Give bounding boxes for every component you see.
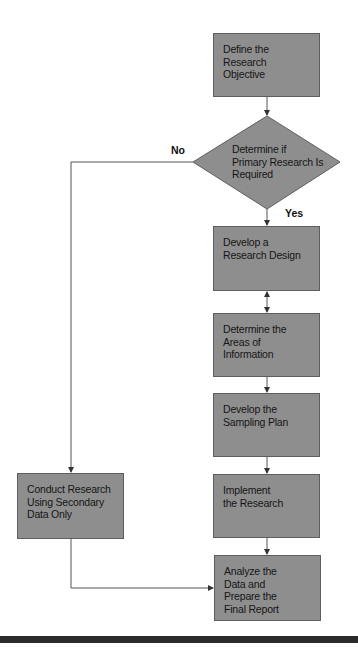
edge-label-yes: Yes — [285, 207, 303, 219]
node-sampling-plan: Develop the Sampling Plan — [213, 393, 320, 457]
node-implement: Implement the Research — [213, 474, 320, 538]
node-analyze-report: Analyze the Data and Prepare the Final R… — [214, 555, 321, 621]
arrow-secondary-to-analyze — [71, 539, 213, 588]
node-research-design: Develop a Research Design — [213, 226, 320, 291]
flowchart: Define the Research Objective Determine … — [0, 0, 358, 659]
node-define-objective: Define the Research Objective — [213, 33, 320, 97]
node-areas-information: Determine the Areas of Information — [213, 313, 320, 377]
edge-label-no: No — [171, 144, 185, 156]
bottom-rule — [0, 636, 358, 643]
node-primary-decision-label: Determine if Primary Research Is Require… — [232, 143, 342, 181]
node-secondary-data: Conduct Research Using Secondary Data On… — [17, 473, 124, 539]
arrow-decision-to-secondary — [71, 162, 193, 472]
